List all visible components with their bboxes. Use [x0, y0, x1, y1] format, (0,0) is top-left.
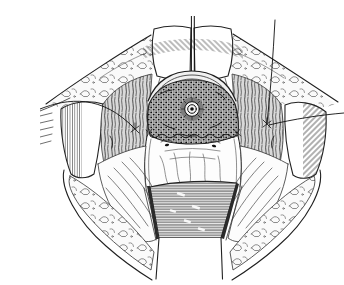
circular-orifice — [181, 98, 204, 121]
surgical-illustration — [40, 16, 344, 285]
